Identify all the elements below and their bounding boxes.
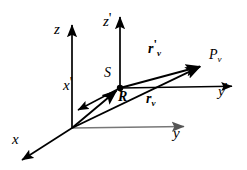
axis-label-y: y <box>173 126 180 141</box>
vector-label-rv: rv <box>146 92 155 106</box>
axis-label-x: x <box>12 132 19 147</box>
axis-y-prime <box>120 86 232 88</box>
subscript-v-Pv: v <box>218 54 222 64</box>
axis-x-prime <box>78 88 120 110</box>
vector-label-rv-prime: r'v <box>148 42 161 56</box>
point-label-Pv: Pv <box>209 48 222 62</box>
diagram-canvas <box>0 0 247 170</box>
axis-label-z: z <box>54 22 60 37</box>
vector-rv-prime <box>120 67 200 89</box>
vector-label-R: R <box>118 90 127 104</box>
axis-label-x-prime: x' <box>63 78 72 93</box>
prime-glyph-y-prime: ' <box>225 80 228 96</box>
vector-rv <box>72 67 200 128</box>
prime-glyph-z-prime: ' <box>109 10 112 26</box>
axis-label-z-prime: z' <box>103 14 112 29</box>
subscript-v-rv: v <box>151 98 155 108</box>
coordinate-system-diagram: z z' y y' x x' S Pv R rv r'v <box>0 0 247 170</box>
axis-y <box>72 127 184 129</box>
prime-glyph-x-prime: ' <box>70 74 73 90</box>
axis-label-y-prime: y' <box>218 84 227 99</box>
subscript-v-rv-prime: v <box>157 48 161 58</box>
axis-x <box>22 128 72 160</box>
point-label-S: S <box>104 66 111 80</box>
